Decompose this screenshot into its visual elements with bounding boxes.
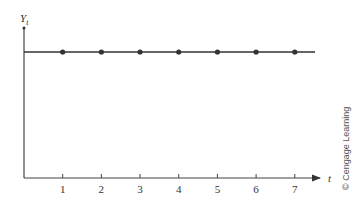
data-point bbox=[254, 49, 259, 54]
x-tick-label: 6 bbox=[253, 183, 259, 195]
data-point bbox=[99, 49, 104, 54]
x-axis-label: t bbox=[328, 172, 332, 184]
x-tick-label: 7 bbox=[292, 183, 298, 195]
data-point bbox=[176, 49, 181, 54]
x-tick-label: 2 bbox=[99, 183, 105, 195]
data-point bbox=[60, 49, 65, 54]
x-tick-label: 3 bbox=[137, 183, 143, 195]
data-point bbox=[137, 49, 142, 54]
chart-area: Yt t 1234567 © Cengage Learning bbox=[0, 0, 362, 198]
x-tick-label: 4 bbox=[176, 183, 182, 195]
y-axis-end-dot bbox=[23, 27, 26, 30]
x-tick-label: 1 bbox=[60, 183, 66, 195]
data-point bbox=[292, 49, 297, 54]
x-tick-label: 5 bbox=[215, 183, 221, 195]
copyright-notice: © Cengage Learning bbox=[341, 107, 351, 190]
y-axis-label: Yt bbox=[20, 12, 29, 27]
data-point bbox=[215, 49, 220, 54]
